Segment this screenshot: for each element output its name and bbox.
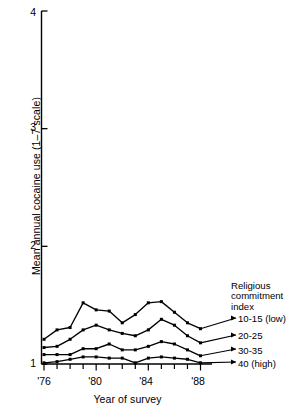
series-4: [43, 355, 203, 364]
chart-figure: Mean annual cocaine use (1–7 scale) 4 3 …: [0, 0, 297, 412]
axis-lines: [42, 11, 213, 364]
data-series-group: [43, 300, 203, 364]
axis-ticks: [42, 11, 201, 371]
plot-area: [0, 0, 297, 412]
series-3: [43, 340, 203, 357]
legend-leader-lines: [201, 315, 237, 364]
